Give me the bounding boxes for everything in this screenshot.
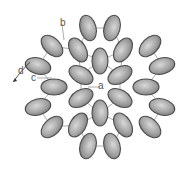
- bead-flower-diagram: [0, 0, 188, 172]
- label-c: c: [31, 73, 36, 83]
- bead-outer: [77, 131, 99, 160]
- bead-outer: [101, 13, 123, 42]
- bead-outer: [135, 112, 165, 142]
- bead-outer: [135, 31, 165, 61]
- bead-outer: [147, 55, 176, 77]
- bead-outer: [37, 31, 67, 61]
- arrowhead-icon: [13, 78, 17, 82]
- bead-outer: [101, 131, 123, 160]
- bead-outer: [147, 96, 176, 118]
- bead-middle: [41, 79, 67, 95]
- label-a: a: [98, 81, 104, 91]
- label-d: d: [18, 66, 24, 76]
- bead-outer: [77, 13, 99, 42]
- bead-inner: [92, 100, 108, 126]
- bead-middle: [133, 79, 159, 95]
- label-b: b: [60, 18, 66, 28]
- bead-outer: [37, 112, 67, 142]
- bead-outer: [23, 96, 52, 118]
- bead-inner: [92, 48, 108, 74]
- bead-outer: [23, 55, 52, 77]
